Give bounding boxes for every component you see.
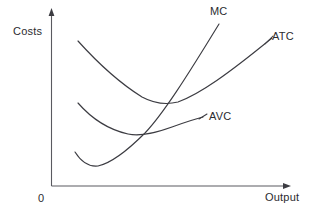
y-axis-arrowhead	[49, 8, 55, 16]
curve-label-atc: ATC	[272, 30, 294, 42]
curve-mc	[75, 24, 219, 166]
curve-label-avc: AVC	[209, 110, 231, 122]
curve-label-mc: MC	[210, 5, 228, 17]
y-axis-label: Costs	[13, 25, 42, 37]
avc-leader-line	[199, 114, 207, 119]
x-axis	[52, 183, 292, 189]
y-axis	[49, 8, 55, 186]
x-axis-arrowhead	[283, 183, 291, 189]
curve-avc	[78, 103, 203, 135]
origin-label: 0	[38, 192, 44, 204]
cost-curves-figure: Costs MC ATC AVC Output 0	[0, 0, 319, 215]
x-axis-label: Output	[265, 191, 299, 203]
